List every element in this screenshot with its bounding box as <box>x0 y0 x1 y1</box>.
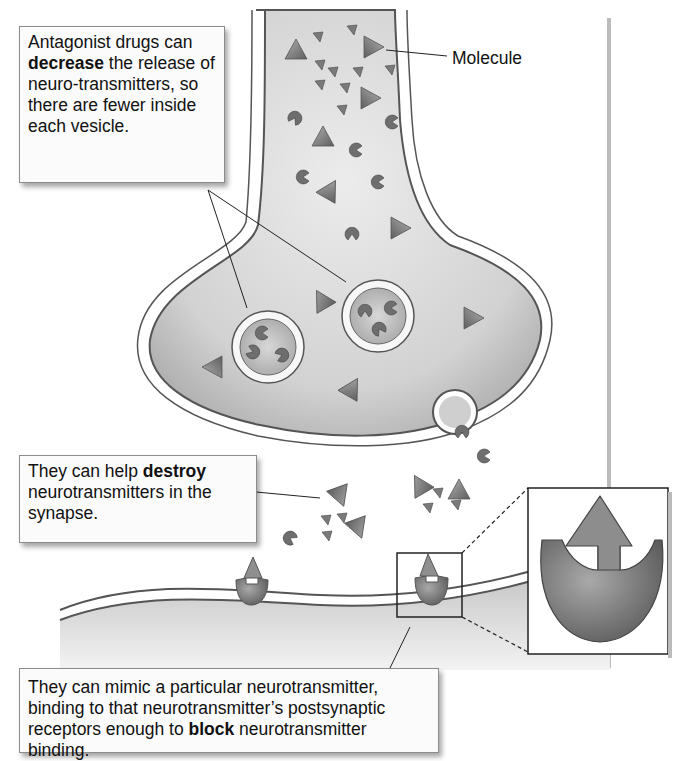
receptor-inset <box>528 488 672 658</box>
callout-decrease: Antagonist drugs can decrease the releas… <box>19 26 225 183</box>
callout-decrease-pre: Antagonist drugs can <box>28 32 192 52</box>
callout-destroy-bold: destroy <box>143 461 206 481</box>
callout-block: They can mimic a particular neurotransmi… <box>19 668 439 753</box>
vesicle-right <box>342 280 414 352</box>
callout-destroy-post: neurotransmitters in the synapse. <box>28 482 212 523</box>
molecule-label: Molecule <box>452 48 522 69</box>
callout-block-bold: block <box>189 719 235 739</box>
callout-destroy-pre: They can help <box>28 461 143 481</box>
vesicle-left <box>232 311 304 383</box>
callout-destroy: They can help destroy neurotransmitters … <box>19 455 257 543</box>
callout-decrease-bold: decrease <box>28 53 104 73</box>
